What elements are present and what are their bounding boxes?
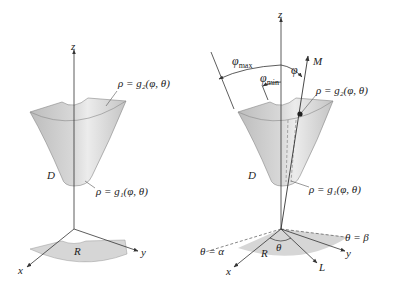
z-axis-label-right: z bbox=[278, 9, 282, 20]
y-axis-label-left: y bbox=[141, 247, 146, 258]
diagram-canvas bbox=[0, 0, 393, 292]
phi-label: φ bbox=[291, 64, 298, 76]
phi-max-label: φmax bbox=[232, 55, 252, 70]
solid-d-left bbox=[30, 98, 126, 186]
theta-alpha-label: θ = α bbox=[200, 246, 224, 257]
x-axis-label-left: x bbox=[18, 265, 23, 276]
z-axis-label-left: z bbox=[71, 41, 75, 52]
outer-surface-label-right: ρ = g₂(φ, θ) bbox=[316, 85, 368, 96]
region-label-right: R bbox=[261, 248, 268, 259]
solid-label-left: D bbox=[47, 170, 55, 181]
ray-l-label: L bbox=[319, 262, 325, 273]
theta-beta-label: θ = β bbox=[345, 232, 369, 243]
inner-surface-label-left: ρ = g₁(φ, θ) bbox=[96, 186, 148, 197]
region-label-left: R bbox=[74, 246, 81, 257]
inner-surface-label-right: ρ = g₁(φ, θ) bbox=[309, 184, 361, 195]
surface-point bbox=[297, 111, 302, 116]
y-axis-label-right: y bbox=[346, 248, 351, 259]
ray-m-label: M bbox=[313, 56, 322, 67]
outer-surface-label-left: ρ = g₂(φ, θ) bbox=[118, 78, 170, 89]
solid-label-right: D bbox=[248, 170, 256, 181]
theta-label: θ bbox=[276, 242, 281, 253]
x-axis-label-right: x bbox=[226, 266, 231, 277]
phi-min-label: φmin bbox=[260, 72, 279, 87]
right-figure bbox=[205, 18, 348, 267]
